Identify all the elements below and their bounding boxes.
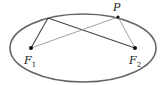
- segment-f1-p: [31, 17, 118, 48]
- label-p: P: [112, 1, 121, 14]
- ellipse-diagram: P F1 F2: [0, 0, 164, 85]
- focus-f1-dot: [29, 46, 33, 50]
- point-p-dot: [116, 15, 119, 18]
- segment-q-f2: [48, 18, 135, 48]
- focus-f2-dot: [133, 46, 137, 50]
- label-f2: F2: [128, 54, 141, 69]
- label-f1: F1: [23, 54, 36, 69]
